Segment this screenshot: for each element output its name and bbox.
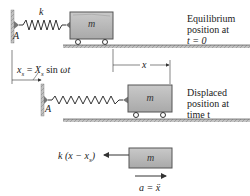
caption-line: t = 0 (187, 35, 235, 46)
mid-wheels (134, 113, 166, 118)
spring-force-label: k (x − xs) (58, 150, 95, 166)
caption-line: time t (187, 109, 229, 120)
eq-sign: = (24, 64, 35, 75)
fbd-mass-label: m (129, 152, 172, 163)
acceleration-label: a = ẍ (139, 182, 160, 193)
top-anchor-A (14, 21, 19, 29)
caption-line: Equilibrium (187, 13, 235, 24)
top-wheels (76, 40, 108, 45)
mid-anchor-label: A (45, 103, 51, 114)
caption-line: position at (187, 98, 229, 109)
support-motion-equation: xs = Xs sin ωt (17, 64, 70, 80)
displacement-x-label: x (142, 59, 146, 70)
mid-spring (48, 96, 123, 104)
force-label-close: ) (92, 150, 95, 161)
caption-line: position at (187, 24, 235, 35)
top-mass-label: m (70, 18, 113, 29)
top-anchor-label: A (13, 30, 19, 41)
force-label-main: k (x − x (58, 150, 89, 161)
eq-t: t (67, 64, 70, 75)
caption-line: Displaced (187, 87, 229, 98)
eq-fn: sin (44, 64, 61, 75)
mid-wall (41, 84, 44, 116)
spring-constant-label: k (39, 6, 43, 17)
top-spring (19, 20, 66, 30)
equilibrium-caption: Equilibrium position at t = 0 (187, 13, 235, 46)
displaced-caption: Displaced position at time t (187, 87, 229, 120)
mid-mass-label: m (128, 92, 172, 103)
